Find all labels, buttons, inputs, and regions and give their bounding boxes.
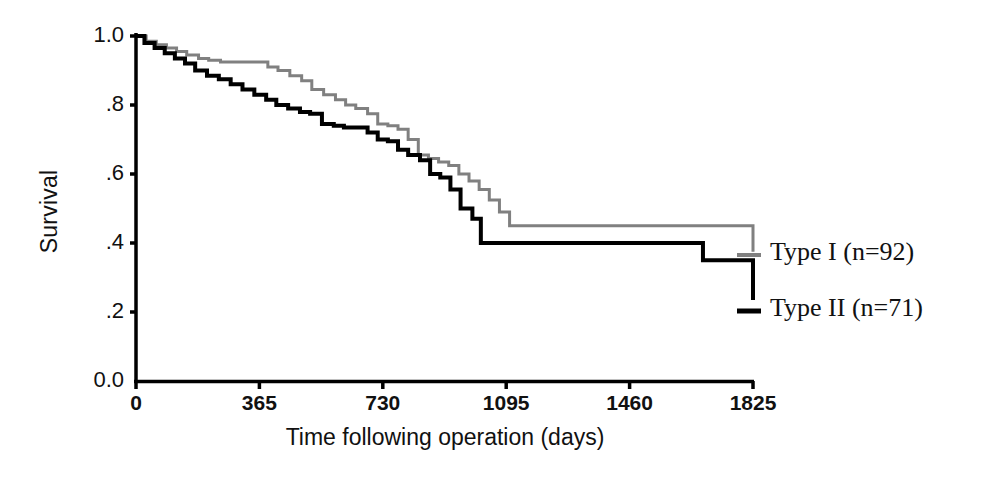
x-tick-label: 730: [338, 391, 428, 415]
y-axis-label-container: Survival: [34, 130, 64, 290]
x-tick-label: 1825: [708, 391, 798, 415]
x-tick-label: 0: [91, 391, 181, 415]
y-tick-label: .8: [68, 91, 124, 117]
y-tick-label: .2: [68, 298, 124, 324]
legend-swatches: [737, 255, 761, 311]
y-axis-label: Survival: [36, 132, 63, 292]
y-tick-label: 0.0: [68, 367, 124, 393]
survival-chart-figure: Survival Time following operation (days)…: [0, 0, 1004, 483]
y-tick-label: .6: [68, 160, 124, 186]
series-line-type-ii: [136, 36, 753, 300]
series-line-type-i: [136, 36, 753, 252]
legend-label-type-i: Type I (n=92): [770, 237, 914, 267]
y-tick-label: 1.0: [68, 22, 124, 48]
x-axis-label: Time following operation (days): [136, 424, 754, 451]
y-tick-label: .4: [68, 229, 124, 255]
axis-lines: [134, 33, 754, 383]
legend-label-type-ii: Type II (n=71): [770, 293, 923, 323]
x-tick-label: 1095: [461, 391, 551, 415]
x-tick-label: 365: [214, 391, 304, 415]
series-lines: [136, 36, 753, 300]
x-tick-label: 1460: [585, 391, 675, 415]
